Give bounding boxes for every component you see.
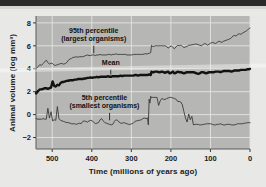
annotation-5th-line1: 5th percentile: [82, 94, 128, 102]
y-tick-label: 4: [27, 64, 32, 73]
y-tick-label: −2: [22, 133, 31, 142]
annotation-95th-line2: (largest organisms): [61, 35, 126, 43]
x-tick-label: 400: [86, 154, 99, 163]
y-tick-label: 8: [27, 19, 31, 28]
annotation-mean-line1: Mean: [102, 59, 120, 66]
x-axis-tick-labels: 5004003002001000: [46, 154, 252, 163]
annotation-5th-line2: (smallest organisms): [69, 102, 139, 110]
x-tick-label: 500: [46, 154, 59, 163]
y-tick-label: 0: [27, 110, 31, 119]
animal-volume-line-chart: 5004003002001000 −202468 95th percentile…: [0, 0, 266, 187]
y-tick-label: 2: [27, 87, 31, 96]
y-axis-title: Animal volume (log mm³): [8, 34, 17, 132]
x-tick-label: 0: [248, 154, 252, 163]
y-tick-label: 6: [27, 42, 31, 51]
x-tick-label: 100: [204, 154, 217, 163]
figure-container: 5004003002001000 −202468 95th percentile…: [0, 0, 266, 187]
x-tick-label: 300: [125, 154, 138, 163]
x-tick-label: 200: [165, 154, 178, 163]
y-axis-tick-labels: −202468: [22, 19, 31, 143]
annotation-95th-line1: 95th percentile: [69, 27, 119, 35]
x-axis-title: Time (millions of years ago): [89, 167, 198, 176]
chart-plot-wrapper: 5004003002001000 −202468 95th percentile…: [0, 0, 266, 187]
